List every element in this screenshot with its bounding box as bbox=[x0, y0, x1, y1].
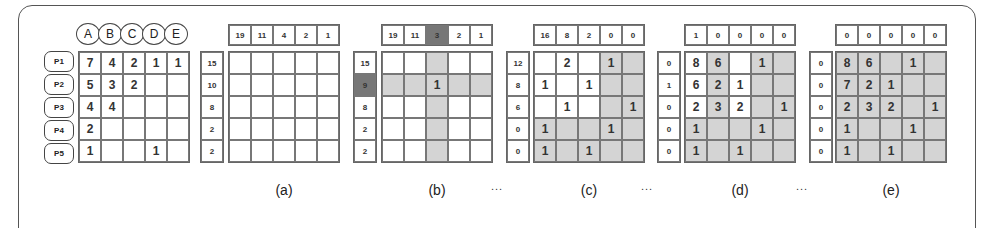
panel-cell bbox=[902, 74, 924, 96]
column-header-circle: A bbox=[76, 23, 100, 45]
column-sum-cell: 0 bbox=[924, 25, 946, 45]
panel-cell bbox=[773, 52, 795, 74]
column-sums-row: 10000 bbox=[684, 24, 796, 46]
panel-cell bbox=[729, 118, 751, 140]
row-sum-cell: 0 bbox=[507, 118, 529, 140]
panel-cell bbox=[600, 140, 622, 162]
column-sum-cell: 0 bbox=[751, 25, 773, 45]
panel-cell: 1 bbox=[836, 118, 858, 140]
column-sum-cell: 16 bbox=[534, 25, 556, 45]
panel-cell: 1 bbox=[622, 96, 644, 118]
matrix-cell: 4 bbox=[101, 52, 123, 74]
panel-cell bbox=[902, 96, 924, 118]
column-sum-cell: 0 bbox=[773, 25, 795, 45]
panel-cell bbox=[556, 140, 578, 162]
panel-cell bbox=[317, 52, 339, 74]
panel-cell: 2 bbox=[729, 96, 751, 118]
panel-cell: 1 bbox=[426, 74, 448, 96]
panel-cell bbox=[404, 140, 426, 162]
panel-cell: 2 bbox=[880, 96, 902, 118]
row-sum-cell: 8 bbox=[354, 96, 376, 118]
panel-cell bbox=[382, 52, 404, 74]
panel-cell: 1 bbox=[600, 118, 622, 140]
row-sums-column: 01000 bbox=[657, 51, 681, 163]
panel-cell bbox=[858, 140, 880, 162]
panel-cell bbox=[229, 140, 251, 162]
panel-cell bbox=[295, 74, 317, 96]
panel-cell bbox=[251, 118, 273, 140]
panel-cell: 8 bbox=[685, 52, 707, 74]
panel-label: (b) bbox=[417, 182, 457, 198]
panel-cell bbox=[773, 74, 795, 96]
row-sum-cell: 0 bbox=[658, 52, 680, 74]
panel-cell: 2 bbox=[707, 74, 729, 96]
column-sum-cell: 0 bbox=[902, 25, 924, 45]
row-sum-cell: 1 bbox=[658, 74, 680, 96]
panel-cell: 1 bbox=[729, 140, 751, 162]
panel-cell: 1 bbox=[600, 52, 622, 74]
panel-cell bbox=[470, 74, 492, 96]
row-sum-cell: 2 bbox=[201, 140, 223, 162]
panel-cell bbox=[382, 74, 404, 96]
panel-cell: 1 bbox=[578, 74, 600, 96]
column-sum-cell: 0 bbox=[600, 25, 622, 45]
panel-cell bbox=[404, 52, 426, 74]
column-sum-cell: 19 bbox=[229, 25, 251, 45]
matrix-cell: 1 bbox=[145, 52, 167, 74]
panel-cell bbox=[382, 118, 404, 140]
matrix-cell bbox=[123, 96, 145, 118]
matrix-cell bbox=[167, 74, 189, 96]
panel-cell bbox=[426, 118, 448, 140]
panel-cell bbox=[229, 52, 251, 74]
row-sums-column: 1510822 bbox=[200, 51, 224, 163]
panel-label: (e) bbox=[871, 182, 911, 198]
column-sum-cell: 2 bbox=[448, 25, 470, 45]
panel-cell bbox=[251, 140, 273, 162]
column-sum-cell: 0 bbox=[622, 25, 644, 45]
panel-cell bbox=[600, 74, 622, 96]
column-sum-cell: 0 bbox=[707, 25, 729, 45]
panel-cell bbox=[404, 74, 426, 96]
panel-cell: 1 bbox=[902, 118, 924, 140]
column-sum-cell: 11 bbox=[251, 25, 273, 45]
panel-cell bbox=[448, 52, 470, 74]
matrix-cell bbox=[145, 118, 167, 140]
column-sum-cell: 2 bbox=[578, 25, 600, 45]
panel-cell bbox=[317, 74, 339, 96]
matrix-cell bbox=[123, 140, 145, 162]
panel-cell bbox=[426, 140, 448, 162]
panel-grid: 86162123211111 bbox=[684, 51, 796, 163]
panel-grid: 2111111111 bbox=[533, 51, 645, 163]
matrix-cell bbox=[167, 96, 189, 118]
panel-cell: 8 bbox=[836, 52, 858, 74]
panel-cell: 2 bbox=[556, 52, 578, 74]
panel-label: (d) bbox=[720, 182, 760, 198]
panel-cell: 3 bbox=[858, 96, 880, 118]
panel-cell: 7 bbox=[836, 74, 858, 96]
row-sum-cell: 6 bbox=[507, 96, 529, 118]
ellipsis: ... bbox=[641, 180, 653, 192]
panel-cell bbox=[707, 140, 729, 162]
panel-cell: 1 bbox=[836, 140, 858, 162]
row-sum-cell: 15 bbox=[354, 52, 376, 74]
column-sum-cell: 2 bbox=[295, 25, 317, 45]
row-sum-cell: 0 bbox=[658, 118, 680, 140]
panel-cell bbox=[578, 118, 600, 140]
panel-grid: 86172123211111 bbox=[835, 51, 947, 163]
row-label: P2 bbox=[44, 74, 74, 95]
row-sum-cell: 2 bbox=[201, 118, 223, 140]
panel-cell bbox=[251, 96, 273, 118]
panel-cell: 1 bbox=[880, 140, 902, 162]
panel-cell bbox=[273, 52, 295, 74]
panel-cell bbox=[251, 52, 273, 74]
panel-cell bbox=[751, 140, 773, 162]
matrix-cell: 7 bbox=[79, 52, 101, 74]
matrix-cell: 3 bbox=[101, 74, 123, 96]
panel-cell bbox=[295, 96, 317, 118]
panel-cell bbox=[317, 96, 339, 118]
panel-cell bbox=[382, 96, 404, 118]
matrix-cell: 2 bbox=[79, 118, 101, 140]
panel-cell bbox=[773, 118, 795, 140]
panel-cell bbox=[578, 96, 600, 118]
matrix-cell: 1 bbox=[167, 52, 189, 74]
